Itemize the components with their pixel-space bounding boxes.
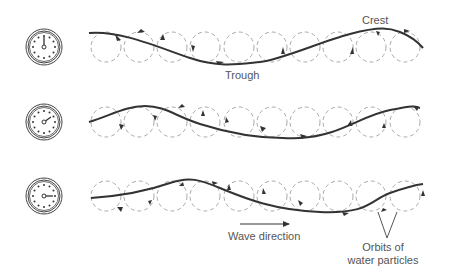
orbits-row-1 bbox=[91, 32, 420, 62]
trough-label: Trough bbox=[225, 69, 259, 81]
crest-label: Crest bbox=[362, 14, 388, 26]
wave-orbit-diagram bbox=[0, 0, 451, 274]
wave-profile-row-3 bbox=[91, 179, 423, 212]
orbits-row-3 bbox=[91, 181, 420, 211]
wave-profile-row-2 bbox=[89, 106, 420, 138]
clock-icon-row-2 bbox=[26, 104, 62, 140]
orbits-row-2 bbox=[91, 107, 420, 137]
clock-icon-row-1 bbox=[26, 29, 62, 65]
orbits-label-line-1: Orbits of bbox=[343, 241, 423, 253]
clock-icon-row-3 bbox=[26, 178, 62, 214]
wave-profile-row-1 bbox=[89, 29, 423, 65]
orbits-pointer-lines bbox=[378, 212, 397, 238]
wave-direction-label: Wave direction bbox=[228, 230, 300, 242]
orbits-label-line-2: water particles bbox=[343, 254, 423, 266]
